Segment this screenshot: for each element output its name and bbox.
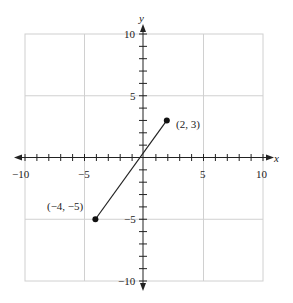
y-axis-label: y	[138, 12, 144, 24]
x-tick-label: 10	[256, 168, 268, 180]
y-tick-label: 5	[130, 90, 136, 102]
y-axis-arrow-down-icon	[140, 283, 146, 291]
line-segment	[95, 120, 166, 219]
x-axis-label: x	[273, 152, 279, 164]
x-axis-arrow-left-icon	[14, 155, 22, 161]
y-tick-label: −10	[118, 275, 136, 287]
coordinate-plane: −10 −5 5 10 10 5 −5 −10 x y (−4, −5) (2,…	[0, 0, 293, 303]
y-tick-label: 10	[124, 28, 136, 40]
point-b-label: (2, 3)	[176, 118, 200, 131]
x-tick-label: −5	[78, 168, 90, 180]
point-a	[92, 216, 98, 222]
x-axis-arrow-right-icon	[266, 155, 274, 161]
point-b	[164, 117, 170, 123]
point-a-label: (−4, −5)	[47, 200, 84, 213]
x-tick-label: −10	[12, 168, 30, 180]
y-tick-label: −5	[124, 213, 136, 225]
y-axis-arrow-up-icon	[140, 24, 146, 32]
x-tick-label: 5	[200, 168, 206, 180]
